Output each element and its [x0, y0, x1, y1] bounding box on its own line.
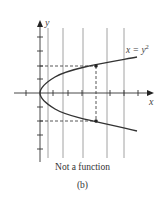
figure-sublabel: (b): [0, 180, 165, 190]
x-axis-label: x: [148, 96, 154, 107]
figure-caption: Not a function: [0, 162, 165, 172]
parabola-curve: [40, 57, 137, 131]
graph-canvas: y x x = y2: [0, 0, 165, 204]
y-axis-arrow-icon: [37, 20, 43, 27]
equation-label: x = y2: [125, 43, 149, 55]
y-axis-label: y: [44, 17, 50, 28]
intersection-point-upper: [94, 64, 98, 68]
x-axis: [14, 90, 150, 96]
intersection-point-lower: [94, 119, 98, 123]
